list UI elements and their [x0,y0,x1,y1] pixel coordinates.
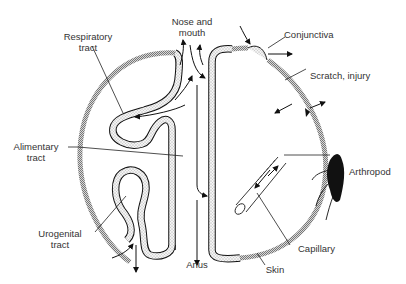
label-respiratory-2: tract [79,42,98,53]
label-anus: Anus [186,259,208,270]
alimentary-tract [212,49,240,259]
label-conjunctiva: Conjunctiva [284,29,334,40]
label-urogenital-2: tract [51,239,70,250]
label-skin: Skin [266,264,284,275]
label-alimentary-2: tract [27,152,46,163]
label-nose-mouth-2: mouth [179,27,205,38]
capillary [233,157,286,216]
label-urogenital: Urogenital [38,228,81,239]
label-scratch: Scratch, injury [310,70,370,81]
conjunctiva [248,46,267,60]
label-alimentary: Alimentary [14,141,59,152]
label-arthropod: Arthropod [349,166,391,177]
label-respiratory: Respiratory [64,31,113,42]
respiratory-tract [113,53,179,250]
body-surfaces-diagram: Nose and mouth Respiratory tract Conjunc… [0,0,406,284]
label-capillary: Capillary [298,243,335,254]
label-nose-mouth: Nose and [172,16,213,27]
urogenital-tract [116,170,172,256]
